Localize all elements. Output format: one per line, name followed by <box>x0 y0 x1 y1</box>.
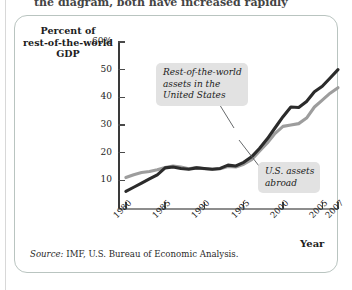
figure-root: the diagram, both have increased rapidly… <box>0 0 352 290</box>
x-axis-title: Year <box>300 238 324 249</box>
callout-us-assets-abroad: U.S. assets abroad <box>258 162 320 193</box>
source-value: IMF, U.S. Bureau of Economic Analysis. <box>64 249 239 259</box>
source-label: Source: <box>30 249 64 259</box>
callout-rest-of-world-assets: Rest-of-the-world assets in the United S… <box>156 63 248 106</box>
source-note: Source: IMF, U.S. Bureau of Economic Ana… <box>30 249 238 259</box>
